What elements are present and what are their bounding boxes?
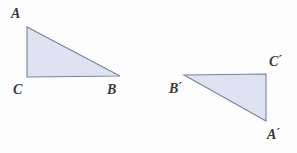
vertex-prime-b-prime: ´ — [178, 80, 182, 94]
vertex-prime-a-prime: ´ — [276, 126, 280, 140]
vertex-label-c: C — [13, 83, 22, 97]
vertex-label-a: A — [11, 7, 20, 21]
geometry-canvas — [0, 0, 297, 153]
vertex-label-b: B — [107, 83, 116, 97]
vertex-label-b-prime: B´ — [169, 82, 182, 96]
triangle-abc — [27, 27, 120, 77]
vertex-letter-b: B — [107, 82, 116, 97]
vertex-letter-a: A — [11, 6, 20, 21]
vertex-prime-c-prime: ´ — [278, 53, 282, 67]
geometry-figure: A C B B´ C´ A´ — [0, 0, 297, 153]
vertex-label-a-prime: A´ — [267, 128, 280, 142]
triangle-a-prime-b-prime-c-prime — [184, 74, 266, 121]
vertex-label-c-prime: C´ — [269, 55, 282, 69]
vertex-letter-c: C — [13, 82, 22, 97]
vertex-letter-c-prime: C — [269, 54, 278, 69]
vertex-letter-b-prime: B — [169, 81, 178, 96]
vertex-letter-a-prime: A — [267, 127, 276, 142]
